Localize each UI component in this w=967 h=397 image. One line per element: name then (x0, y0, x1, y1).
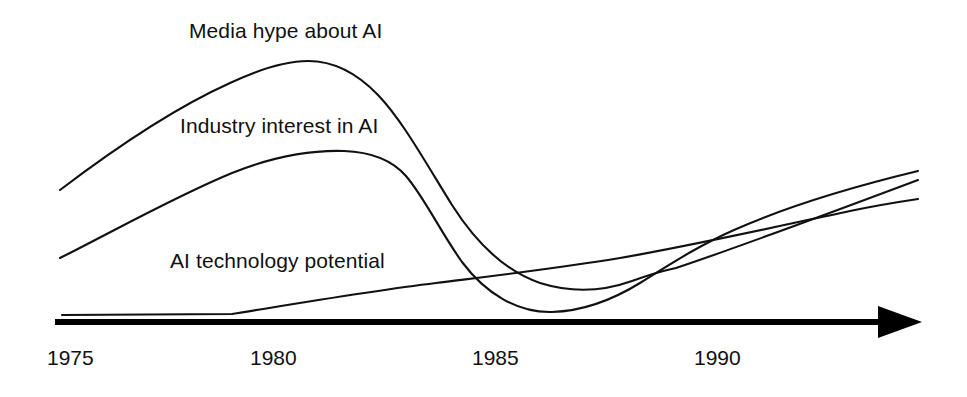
series-label-media-hype: Media hype about AI (189, 20, 382, 41)
x-tick-label-1990: 1990 (694, 347, 741, 368)
x-tick-label-1975: 1975 (47, 347, 94, 368)
x-tick-label-1980: 1980 (250, 347, 297, 368)
x-axis-arrow-icon (878, 306, 922, 338)
curve-industry-interest-in-ai (60, 151, 918, 312)
series-label-ai-technology-potential: AI technology potential (170, 250, 385, 271)
chart-plot-area (0, 0, 967, 397)
ai-hype-cycle-chart: Media hype about AI Industry interest in… (0, 0, 967, 397)
series-label-industry-interest: Industry interest in AI (180, 115, 378, 136)
x-tick-label-1985: 1985 (472, 347, 519, 368)
